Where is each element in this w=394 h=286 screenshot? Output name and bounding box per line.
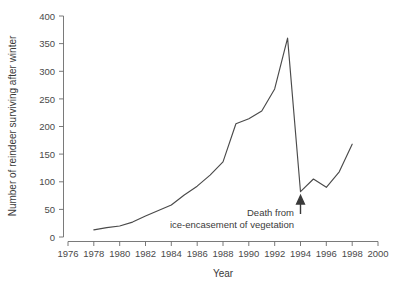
x-tick-label-1976: 1976 bbox=[57, 248, 78, 259]
y-tick-label-50: 50 bbox=[44, 204, 55, 215]
x-tick-label-1986: 1986 bbox=[187, 248, 208, 259]
y-tick-label-200: 200 bbox=[39, 121, 55, 132]
y-tick-label-400: 400 bbox=[39, 11, 55, 22]
y-tick-label-250: 250 bbox=[39, 94, 55, 105]
reindeer-population-chart: 400 350 300 250 200 150 100 50 0 bbox=[0, 0, 394, 286]
x-axis-ticks bbox=[68, 242, 378, 247]
x-tick-label-1978: 1978 bbox=[83, 248, 104, 259]
y-tick-label-100: 100 bbox=[39, 176, 55, 187]
x-axis-title: Year bbox=[213, 268, 234, 279]
x-tick-label-1984: 1984 bbox=[161, 248, 182, 259]
y-axis-tick-labels: 400 350 300 250 200 150 100 50 0 bbox=[39, 11, 55, 243]
y-tick-label-350: 350 bbox=[39, 38, 55, 49]
x-tick-label-1980: 1980 bbox=[109, 248, 130, 259]
up-arrow-icon bbox=[297, 196, 305, 215]
y-tick-label-150: 150 bbox=[39, 149, 55, 160]
reindeer-population-line bbox=[94, 38, 352, 230]
x-tick-label-1998: 1998 bbox=[342, 248, 363, 259]
x-tick-label-2000: 2000 bbox=[367, 248, 388, 259]
y-tick-label-0: 0 bbox=[50, 232, 55, 243]
x-tick-label-1988: 1988 bbox=[212, 248, 233, 259]
x-tick-label-1996: 1996 bbox=[316, 248, 337, 259]
y-axis-ticks bbox=[59, 16, 64, 237]
y-axis-title: Number of reindeer surviving after winte… bbox=[7, 35, 18, 216]
x-tick-label-1982: 1982 bbox=[135, 248, 156, 259]
x-tick-label-1994: 1994 bbox=[290, 248, 311, 259]
annotation-line-1: Death from bbox=[247, 207, 294, 218]
annotation-line-2-left: ice-encasement of vegetation bbox=[170, 219, 294, 230]
x-tick-label-1990: 1990 bbox=[238, 248, 259, 259]
chart-canvas: 400 350 300 250 200 150 100 50 0 bbox=[0, 0, 394, 286]
x-tick-label-1992: 1992 bbox=[264, 248, 285, 259]
x-axis-tick-labels: 1976 1978 1980 1982 1984 1986 1988 1990 … bbox=[57, 248, 388, 259]
y-tick-label-300: 300 bbox=[39, 66, 55, 77]
